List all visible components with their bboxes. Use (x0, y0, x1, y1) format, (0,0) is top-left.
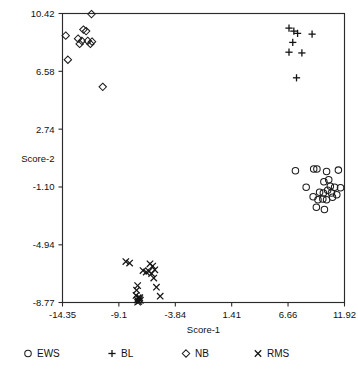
y-tick-label: -1.10 (33, 181, 55, 192)
x-tick-label: -3.84 (164, 309, 186, 320)
y-axis-title: Score-2 (21, 153, 54, 164)
legend-label-nb: NB (195, 348, 209, 359)
y-tick-label: -8.77 (33, 297, 55, 308)
x-tick-label: 11.92 (333, 309, 356, 320)
x-tick-label: -14.35 (49, 309, 76, 320)
y-tick-label: 6.58 (36, 66, 55, 77)
legend-label-bl: BL (121, 348, 134, 359)
x-tick-label: -9.1 (111, 309, 127, 320)
x-tick-label: 1.41 (222, 309, 241, 320)
x-tick-label: 6.66 (279, 309, 298, 320)
y-tick-label: -4.94 (33, 239, 55, 250)
scatter-plot-figure: -14.35-9.1-3.841.416.6611.92 10.426.582.… (0, 0, 358, 372)
legend-label-rms: RMS (267, 348, 290, 359)
y-tick-label: 10.42 (31, 8, 55, 19)
x-axis-title: Score-1 (187, 324, 220, 335)
y-tick-label: 2.74 (36, 124, 55, 135)
legend-label-ews: EWS (37, 348, 60, 359)
plot-canvas: -14.35-9.1-3.841.416.6611.92 10.426.582.… (0, 0, 358, 372)
